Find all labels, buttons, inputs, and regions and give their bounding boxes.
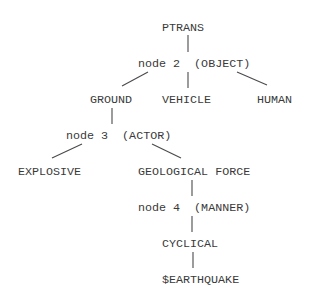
edge-node3-explosive [52, 144, 82, 158]
node-cyclical: CYCLICAL [162, 238, 218, 250]
tree-diagram: PTRANS node 2 (OBJECT) GROUND VEHICLE HU… [0, 0, 309, 299]
node-4-manner: node 4 (MANNER) [138, 202, 250, 214]
edge-layer [0, 0, 309, 299]
node-vehicle: VEHICLE [162, 94, 211, 106]
node-geological-force: GEOLOGICAL FORCE [138, 166, 250, 178]
node-human: HUMAN [257, 94, 292, 106]
node-3-actor: node 3 (ACTOR) [66, 130, 171, 142]
node-explosive: EXPLOSIVE [18, 166, 81, 178]
node-ground: GROUND [90, 94, 132, 106]
node-2-object: node 2 (OBJECT) [138, 58, 250, 70]
edge-node3-geological_force [152, 144, 181, 158]
node-ptrans: PTRANS [162, 22, 204, 34]
node-earthquake: $EARTHQUAKE [162, 274, 239, 286]
edge-node2-ground [122, 72, 148, 86]
edge-node2-human [237, 72, 267, 85]
